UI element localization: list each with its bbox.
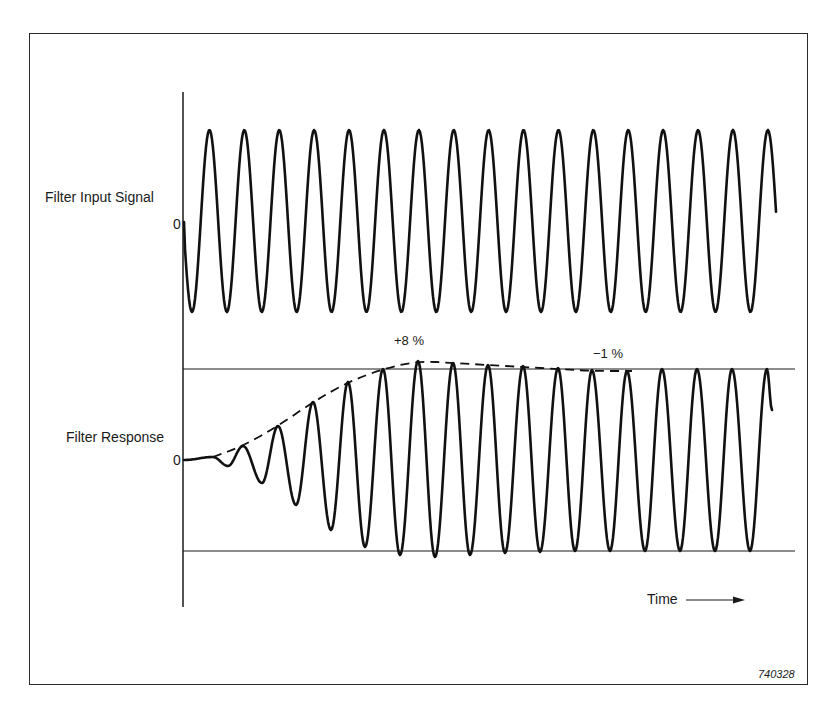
input-signal-trace: [184, 130, 776, 312]
input-signal-label: Filter Input Signal: [45, 189, 154, 205]
response-zero-label: 0: [173, 452, 181, 468]
input-zero-label: 0: [173, 216, 181, 232]
overshoot-annotation: +8 %: [394, 333, 424, 348]
figure-number: 740328: [758, 668, 795, 680]
undershoot-annotation: −1 %: [593, 346, 623, 361]
time-arrow: [686, 597, 745, 604]
waveform-plot: [0, 0, 832, 713]
arrow-head-icon: [733, 597, 745, 604]
time-axis-label: Time: [647, 591, 678, 607]
response-label: Filter Response: [66, 429, 164, 445]
response-trace: [184, 361, 772, 557]
